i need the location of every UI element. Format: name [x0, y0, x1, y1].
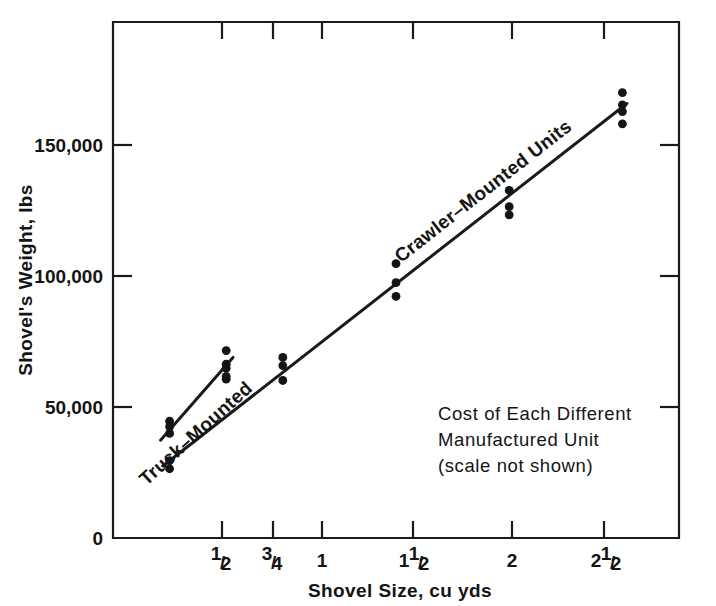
- data-point: [165, 429, 174, 438]
- x-tick-half-denominator: 2: [221, 553, 232, 574]
- x-tick-twohalf-denominator: 2: [611, 553, 622, 574]
- series-label-truck-mounted: Truck–Mounted: [135, 377, 256, 489]
- y-axis-ticks: [113, 145, 679, 407]
- x-tick-label-one-and-half: 1 1 / 2: [399, 543, 430, 574]
- data-point: [618, 119, 627, 128]
- data-point: [278, 353, 287, 362]
- data-point: [618, 88, 627, 97]
- cost-note-line-2: Manufactured Unit: [438, 429, 599, 450]
- x-tick-label-half: 1 / 2: [211, 543, 232, 574]
- y-tick-label-100000: 100,000: [34, 266, 103, 287]
- y-tick-labels: 0 50,000 100,000 150,000: [34, 135, 103, 549]
- data-point: [222, 346, 231, 355]
- x-tick-labels: 1 / 2 3 / 4 1 1 1 / 2 2 2 1 / 2: [211, 543, 622, 574]
- y-tick-label-150000: 150,000: [34, 135, 103, 156]
- cost-note-line-1: Cost of Each Different: [438, 403, 632, 424]
- x-tick-threequarters-denominator: 4: [272, 553, 283, 574]
- x-tick-twohalf-whole: 2: [591, 550, 602, 571]
- x-tick-label-three-quarters: 3 / 4: [262, 543, 283, 574]
- data-point: [392, 292, 401, 301]
- x-tick-label-two-and-half: 2 1 / 2: [591, 543, 622, 574]
- cost-note-line-3: (scale not shown): [438, 455, 593, 476]
- data-point: [278, 376, 287, 385]
- series-label-crawler-mounted: Crawler–Mounted Units: [390, 115, 575, 266]
- cost-note-annotation: Cost of Each Different Manufactured Unit…: [438, 403, 632, 476]
- data-point: [505, 210, 514, 219]
- y-tick-label-0: 0: [92, 528, 103, 549]
- shovel-weight-scatter-chart: 0 50,000 100,000 150,000 Shovel's Weight…: [0, 0, 716, 606]
- data-point: [222, 375, 231, 384]
- data-point: [222, 364, 231, 373]
- y-tick-label-50000: 50,000: [45, 397, 103, 418]
- data-point: [392, 278, 401, 287]
- x-tick-onehalf-denominator: 2: [419, 553, 430, 574]
- data-point: [505, 202, 514, 211]
- chart-figure: 0 50,000 100,000 150,000 Shovel's Weight…: [0, 0, 716, 606]
- x-tick-label-one: 1: [317, 550, 328, 571]
- x-tick-label-two: 2: [507, 550, 518, 571]
- x-axis-title: Shovel Size, cu yds: [308, 580, 492, 601]
- y-axis-title: Shovel's Weight, lbs: [15, 184, 36, 376]
- data-point: [618, 107, 627, 116]
- data-point: [505, 186, 514, 195]
- data-point: [278, 361, 287, 370]
